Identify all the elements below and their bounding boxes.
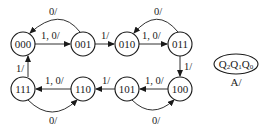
svg-text:0/: 0/ <box>49 6 57 17</box>
transition-011-010: 0/ <box>134 6 178 33</box>
svg-text:000: 000 <box>15 38 32 50</box>
state-001: 001 <box>71 32 95 56</box>
svg-text:001: 001 <box>75 38 92 50</box>
legend: Q2Q1Q0 A/ <box>214 54 258 88</box>
transition-001-010: 1/ <box>95 30 114 44</box>
svg-text:1/: 1/ <box>16 63 24 74</box>
legend-state-vars: Q2Q1Q0 <box>219 58 254 71</box>
svg-text:1/: 1/ <box>184 61 192 72</box>
svg-text:1, 0/: 1, 0/ <box>45 75 64 86</box>
transition-100-101: 1, 0/ <box>140 75 168 89</box>
transition-101-100: 0/ <box>132 100 174 126</box>
state-110: 110 <box>71 77 95 101</box>
transition-011-100: 1/ <box>180 56 192 76</box>
svg-text:010: 010 <box>119 38 136 50</box>
state-000: 000 <box>11 32 35 56</box>
svg-text:1, 0/: 1, 0/ <box>41 30 60 41</box>
svg-text:1/: 1/ <box>102 75 110 86</box>
state-111: 111 <box>11 77 35 101</box>
svg-text:111: 111 <box>15 83 31 95</box>
svg-text:1, 0/: 1, 0/ <box>145 75 164 86</box>
svg-text:1, 0/: 1, 0/ <box>142 30 161 41</box>
transition-000-001: 1, 0/ <box>35 30 70 44</box>
state-101: 101 <box>115 77 139 101</box>
svg-text:100: 100 <box>172 83 189 95</box>
state-010: 010 <box>115 32 139 56</box>
state-011: 011 <box>168 32 192 56</box>
svg-text:011: 011 <box>172 38 188 50</box>
svg-text:0/: 0/ <box>154 6 162 17</box>
svg-text:0/: 0/ <box>152 115 160 126</box>
svg-text:1/: 1/ <box>101 30 109 41</box>
transition-111-000: 1/ <box>16 56 28 77</box>
svg-text:0/: 0/ <box>49 115 57 126</box>
transition-101-110: 1/ <box>96 75 115 89</box>
transition-111-110: 0/ <box>28 100 77 126</box>
transition-001-000: 0/ <box>30 6 80 33</box>
legend-output: A/ <box>231 76 243 88</box>
svg-text:110: 110 <box>75 83 92 95</box>
transition-110-111: 1, 0/ <box>36 75 71 89</box>
state-100: 100 <box>168 77 192 101</box>
transition-010-011: 1, 0/ <box>139 30 167 44</box>
state-diagram: 1, 0/ 0/ 1/ 1, 0/ 0/ 1/ 1, 0/ 0/ 1/ 1, 0… <box>0 0 267 130</box>
svg-text:101: 101 <box>119 83 136 95</box>
